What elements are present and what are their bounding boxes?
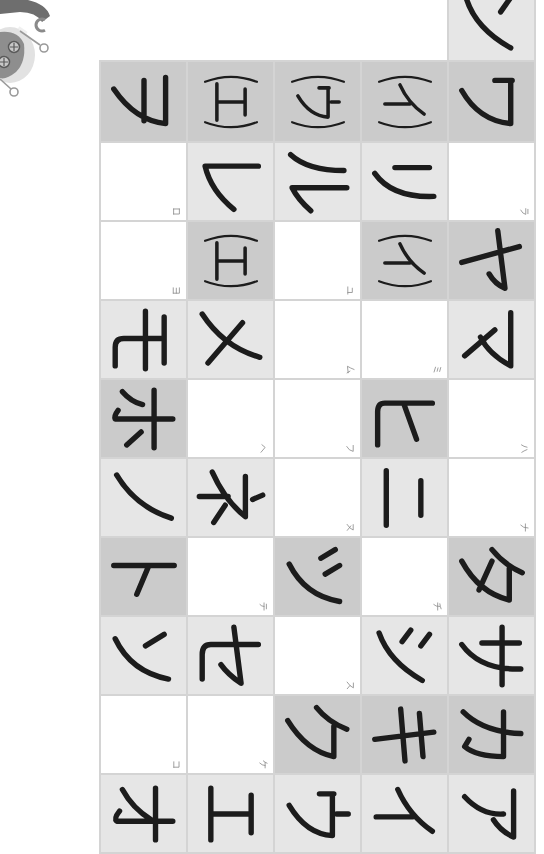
kana-character: ラ (449, 143, 450, 144)
kana-glyph (195, 304, 267, 376)
kana-character: ス (275, 617, 276, 618)
kana-glyph (282, 146, 354, 218)
kana-glyph (195, 462, 267, 534)
kana-hint-glyph (520, 444, 529, 453)
kana-cell: ホ (101, 380, 186, 457)
kana-character: ク (275, 696, 276, 697)
kana-cell: テ (188, 538, 273, 615)
kana-cell: ア (449, 775, 534, 852)
kana-cell: フ (275, 380, 360, 457)
kana-character: ア (449, 775, 450, 776)
kana-glyph (195, 620, 267, 692)
kana-character: セ (188, 617, 189, 618)
kana-glyph (282, 778, 354, 850)
kana-hint-glyph (259, 760, 268, 769)
kana-hint-glyph (259, 602, 268, 611)
kana-character: (ウ) (275, 62, 276, 63)
kana-glyph (369, 699, 441, 771)
kana-cell: ヨ (101, 222, 186, 299)
kana-cell: ソ (101, 617, 186, 694)
kana-character: カ (449, 696, 450, 697)
kana-cell: ユ (275, 222, 360, 299)
kana-character: ヲ (101, 62, 102, 63)
kana-cell: カ (449, 696, 534, 773)
kana-character: モ (101, 301, 102, 302)
kana-character: ワ (449, 62, 450, 63)
katakana-table: ヲ (エ) (ウ) (イ) ワ ロ レ ル リ ラ ヨ (エ) ユ (イ) ヤ … (99, 60, 536, 854)
kana-character: ト (101, 538, 102, 539)
kana-cell: ヲ (101, 62, 186, 141)
kana-glyph (456, 0, 528, 58)
kana-character: ロ (101, 143, 102, 144)
kana-hint-glyph (346, 286, 355, 295)
kana-character: ニ (362, 459, 363, 460)
kana-character: ウ (275, 775, 276, 776)
kana-cell-top: ン (447, 0, 536, 62)
kana-glyph (369, 462, 441, 534)
kana-cell: コ (101, 696, 186, 773)
kana-cell: (ウ) (275, 62, 360, 141)
kana-cell: ミ (362, 301, 447, 378)
kana-cell: オ (101, 775, 186, 852)
kana-cell: ネ (188, 459, 273, 536)
kana-cell: ス (275, 617, 360, 694)
kana-parenthesized-glyph (369, 66, 441, 138)
kana-glyph (456, 620, 528, 692)
kana-hint-glyph (520, 523, 529, 532)
kana-character: ハ (449, 380, 450, 381)
kana-cell: ヘ (188, 380, 273, 457)
kana-character: ユ (275, 222, 276, 223)
kana-character: (イ) (362, 222, 363, 223)
kana-character: オ (101, 775, 102, 776)
kana-hint-glyph (172, 286, 181, 295)
kana-glyph (108, 541, 180, 613)
kana-character: ミ (362, 301, 363, 302)
kana-character: キ (362, 696, 363, 697)
kana-character: イ (362, 775, 363, 776)
kana-character: ム (275, 301, 276, 302)
kana-character: ツ (275, 538, 276, 539)
kana-cell: ワ (449, 62, 534, 141)
kana-cell: ヤ (449, 222, 534, 299)
kana-glyph (108, 778, 180, 850)
kana-character: コ (101, 696, 102, 697)
kana-glyph (369, 146, 441, 218)
kana-character: サ (449, 617, 450, 618)
kana-glyph (108, 304, 180, 376)
kana-glyph (369, 620, 441, 692)
kana-cell: ラ (449, 143, 534, 220)
kana-character: エ (188, 775, 189, 776)
kana-character: テ (188, 538, 189, 539)
kana-cell: シ (362, 617, 447, 694)
kana-character: チ (362, 538, 363, 539)
kana-glyph (195, 778, 267, 850)
kana-character: シ (362, 617, 363, 618)
kana-cell: タ (449, 538, 534, 615)
kana-cell: ナ (449, 459, 534, 536)
kana-hint-glyph (346, 444, 355, 453)
kana-hint-glyph (346, 365, 355, 374)
kana-cell: ハ (449, 380, 534, 457)
kana-parenthesized-glyph (195, 225, 267, 297)
kana-character: ネ (188, 459, 189, 460)
kana-cell: チ (362, 538, 447, 615)
kana-glyph (456, 66, 528, 138)
kana-cell: ト (101, 538, 186, 615)
kana-cell: ツ (275, 538, 360, 615)
kana-character: ノ (101, 459, 102, 460)
kana-glyph (456, 225, 528, 297)
kana-character: (イ) (362, 62, 363, 63)
kana-character: ル (275, 143, 276, 144)
kana-character: リ (362, 143, 363, 144)
kana-cell: レ (188, 143, 273, 220)
kana-cell: ヌ (275, 459, 360, 536)
kana-character: ヤ (449, 222, 450, 223)
kana-cell: ニ (362, 459, 447, 536)
kana-character: ナ (449, 459, 450, 460)
kana-glyph (108, 462, 180, 534)
kana-hint-glyph (346, 681, 355, 690)
kana-cell: ク (275, 696, 360, 773)
kana-cell: サ (449, 617, 534, 694)
kana-cell: ケ (188, 696, 273, 773)
kana-character: ヒ (362, 380, 363, 381)
